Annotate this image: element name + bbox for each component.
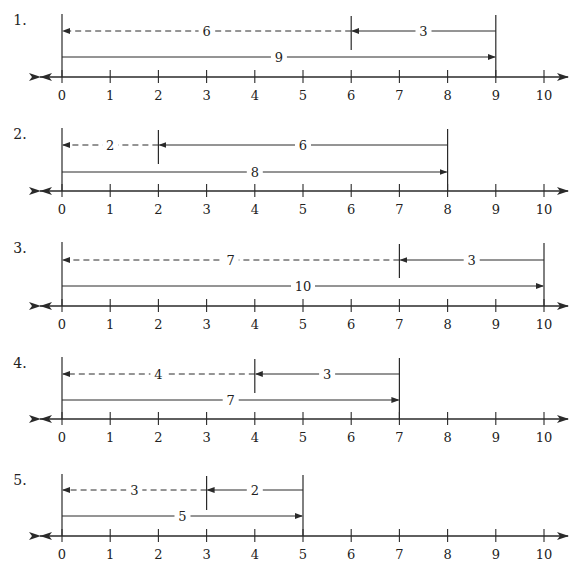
tick-label: 0 [58, 430, 66, 445]
tick-label: 7 [395, 547, 403, 562]
tick-label: 10 [536, 88, 553, 103]
tick-label: 10 [536, 202, 553, 217]
subtract-value-label: 6 [299, 138, 307, 153]
tick-label: 10 [536, 430, 553, 445]
problem-number: 3. [13, 240, 26, 256]
tick-label: 2 [154, 88, 162, 103]
tick-label: 0 [58, 88, 66, 103]
tick-label: 9 [492, 88, 500, 103]
tick-label: 4 [251, 317, 259, 332]
tick-label: 9 [492, 202, 500, 217]
result-value-label: 6 [202, 24, 210, 39]
tick-label: 8 [443, 317, 451, 332]
tick-label: 1 [106, 430, 114, 445]
tick-label: 6 [347, 430, 355, 445]
result-value-label: 3 [130, 483, 138, 498]
tick-label: 5 [299, 317, 307, 332]
total-value-label: 5 [178, 509, 186, 524]
problem-1: 1.012345678910936 [13, 12, 568, 103]
tick-label: 4 [251, 202, 259, 217]
tick-label: 2 [154, 317, 162, 332]
total-value-label: 7 [227, 393, 235, 408]
tick-label: 3 [202, 430, 210, 445]
tick-label: 0 [58, 317, 66, 332]
tick-label: 7 [395, 430, 403, 445]
tick-label: 3 [202, 317, 210, 332]
tick-label: 4 [251, 88, 259, 103]
tick-label: 3 [202, 547, 210, 562]
problem-number: 4. [13, 355, 26, 371]
subtraction-number-line-diagrams: 1.0123456789109362.0123456789108623.0123… [0, 0, 579, 571]
tick-label: 7 [395, 88, 403, 103]
tick-label: 2 [154, 547, 162, 562]
tick-label: 7 [395, 317, 403, 332]
tick-label: 1 [106, 547, 114, 562]
tick-label: 9 [492, 547, 500, 562]
problem-number: 5. [13, 472, 26, 488]
problem-2: 2.012345678910862 [13, 126, 568, 217]
tick-label: 8 [443, 202, 451, 217]
tick-label: 9 [492, 430, 500, 445]
problem-number: 1. [13, 12, 26, 28]
tick-label: 6 [347, 88, 355, 103]
tick-label: 5 [299, 430, 307, 445]
tick-label: 4 [251, 547, 259, 562]
tick-label: 1 [106, 202, 114, 217]
tick-label: 2 [154, 430, 162, 445]
tick-label: 3 [202, 88, 210, 103]
problem-number: 2. [13, 126, 26, 142]
tick-label: 3 [202, 202, 210, 217]
tick-label: 5 [299, 547, 307, 562]
result-value-label: 2 [106, 138, 114, 153]
total-value-label: 8 [251, 165, 259, 180]
tick-label: 0 [58, 202, 66, 217]
tick-label: 6 [347, 547, 355, 562]
tick-label: 6 [347, 317, 355, 332]
subtract-value-label: 3 [468, 253, 476, 268]
tick-label: 1 [106, 88, 114, 103]
total-value-label: 10 [295, 279, 312, 294]
tick-label: 8 [443, 88, 451, 103]
result-value-label: 7 [227, 253, 235, 268]
tick-label: 10 [536, 547, 553, 562]
tick-label: 5 [299, 88, 307, 103]
tick-label: 2 [154, 202, 162, 217]
result-value-label: 4 [154, 367, 162, 382]
tick-label: 0 [58, 547, 66, 562]
tick-label: 8 [443, 430, 451, 445]
tick-label: 1 [106, 317, 114, 332]
total-value-label: 9 [275, 50, 283, 65]
diagram-canvas: 1.0123456789109362.0123456789108623.0123… [0, 0, 579, 571]
tick-label: 4 [251, 430, 259, 445]
tick-label: 5 [299, 202, 307, 217]
subtract-value-label: 2 [251, 483, 259, 498]
subtract-value-label: 3 [323, 367, 331, 382]
problem-3: 3.0123456789101037 [13, 240, 568, 332]
tick-label: 7 [395, 202, 403, 217]
subtract-value-label: 3 [419, 24, 427, 39]
tick-label: 6 [347, 202, 355, 217]
tick-label: 8 [443, 547, 451, 562]
problem-5: 5.012345678910523 [13, 472, 568, 562]
problem-4: 4.012345678910734 [13, 355, 568, 445]
tick-label: 9 [492, 317, 500, 332]
tick-label: 10 [536, 317, 553, 332]
